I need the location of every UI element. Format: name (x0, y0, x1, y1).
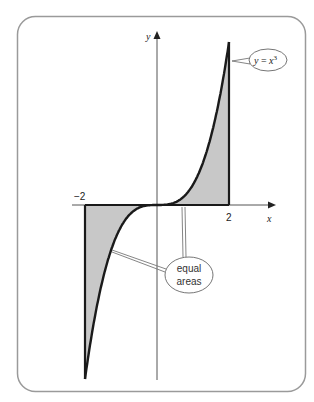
x-axis-label: x (266, 213, 272, 224)
tick-label-2: 2 (226, 212, 232, 223)
y-axis-label: y (145, 31, 151, 42)
tick-label-neg2: −2 (74, 191, 86, 202)
diagram-figure: y x −2 2 y = x3 equal areas (0, 0, 314, 402)
annotation-line1: equal (177, 263, 201, 274)
annotation-line2: areas (176, 276, 201, 287)
